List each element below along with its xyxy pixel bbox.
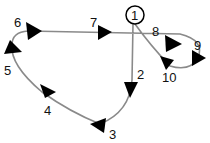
label-7: 7 <box>90 15 97 30</box>
arrow-icon-8 <box>165 35 182 52</box>
arrow-icon-4 <box>40 84 56 98</box>
arrow-icon-7 <box>98 25 112 40</box>
label-8: 8 <box>152 24 159 39</box>
label-1: 1 <box>131 8 138 23</box>
label-3: 3 <box>109 127 116 142</box>
label-2: 2 <box>137 67 144 82</box>
arrow-icon-2 <box>124 82 138 98</box>
arrow-icon-10 <box>160 56 174 70</box>
arrow-icon-6 <box>26 22 42 40</box>
label-5: 5 <box>4 63 11 78</box>
label-6: 6 <box>14 15 21 30</box>
route-diagram: 1 2 3 4 5 6 7 8 9 10 <box>0 0 210 143</box>
label-4: 4 <box>44 103 51 118</box>
label-9: 9 <box>194 38 201 53</box>
label-10: 10 <box>162 70 176 85</box>
